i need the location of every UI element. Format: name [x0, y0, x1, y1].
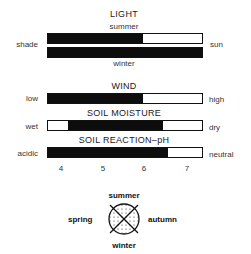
light-winter-bar: [47, 47, 203, 58]
moisture-right-label: dry: [209, 123, 220, 132]
wind-title: WIND: [111, 81, 136, 91]
light-summer-bar: [47, 33, 203, 44]
reaction-fill: [48, 148, 168, 157]
moisture-fill: [68, 121, 163, 130]
wind-bar: [47, 93, 203, 104]
light-left-label: shade: [16, 40, 38, 49]
season-spring-label: spring: [68, 215, 92, 224]
light-winter-fill: [48, 48, 202, 57]
moisture-left-label: wet: [26, 122, 38, 131]
ph-tick-6: 6: [142, 164, 146, 173]
reaction-right-label: neutral: [209, 150, 233, 159]
light-title: LIGHT: [110, 9, 138, 19]
moisture-title: SOIL MOISTURE: [87, 108, 161, 118]
light-summer-fill: [48, 34, 143, 43]
light-summer-label: summer: [110, 22, 139, 31]
wind-fill: [48, 94, 143, 103]
ph-tick-5: 5: [101, 164, 105, 173]
season-circle-icon: [104, 199, 144, 239]
season-winter-label: winter: [112, 241, 136, 250]
ph-tick-7: 7: [185, 164, 189, 173]
light-right-label: sun: [210, 40, 223, 49]
reaction-bar: [47, 147, 203, 158]
moisture-bar: [47, 120, 203, 131]
ph-tick-4: 4: [59, 164, 63, 173]
reaction-left-label: acidic: [18, 149, 38, 158]
wind-right-label: high: [209, 95, 224, 104]
season-autumn-label: autumn: [148, 215, 177, 224]
reaction-title: SOIL REACTION–pH: [79, 135, 170, 145]
light-winter-label: winter: [113, 59, 134, 68]
wind-left-label: low: [26, 94, 38, 103]
